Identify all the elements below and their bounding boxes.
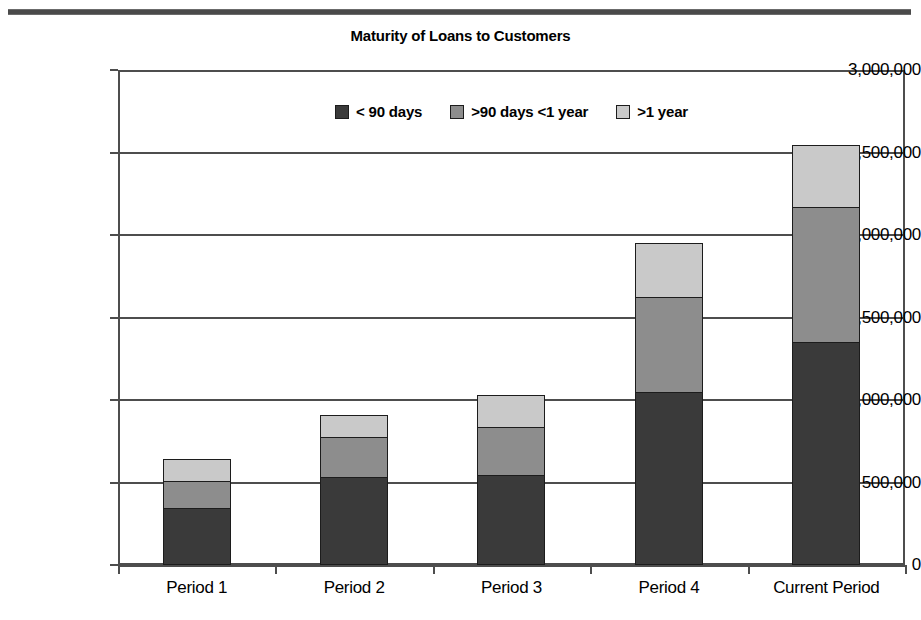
y-tick-mark	[110, 234, 118, 236]
bar-group[interactable]	[275, 70, 432, 565]
legend-label: >90 days <1 year	[471, 103, 588, 120]
legend-item[interactable]: >1 year	[616, 103, 688, 120]
bar-stack[interactable]	[163, 459, 231, 565]
bar-segment[interactable]	[477, 427, 545, 475]
y-tick-mark	[110, 69, 118, 71]
bar-segment[interactable]	[792, 145, 860, 207]
bar-group[interactable]	[433, 70, 590, 565]
x-tick-mark	[275, 565, 277, 574]
bar-stack[interactable]	[635, 243, 703, 565]
bars-layer	[118, 70, 905, 565]
bar-stack[interactable]	[320, 415, 388, 565]
x-tick-mark	[590, 565, 592, 574]
bar-segment[interactable]	[635, 392, 703, 565]
bar-segment[interactable]	[635, 297, 703, 392]
bar-segment[interactable]	[477, 395, 545, 427]
legend-swatch-icon	[616, 105, 630, 119]
x-tick-mark	[905, 565, 907, 574]
chart-legend: < 90 days>90 days <1 year>1 year	[118, 103, 905, 120]
y-tick-mark	[110, 564, 118, 566]
bar-stack[interactable]	[792, 145, 860, 565]
bar-segment[interactable]	[320, 437, 388, 477]
x-tick-label: Period 1	[118, 578, 275, 608]
bar-group[interactable]	[590, 70, 747, 565]
bar-group[interactable]	[118, 70, 275, 565]
x-tick-label: Period 3	[433, 578, 590, 608]
bar-group[interactable]	[748, 70, 905, 565]
bar-segment[interactable]	[635, 243, 703, 297]
legend-label: < 90 days	[356, 103, 422, 120]
legend-item[interactable]: >90 days <1 year	[450, 103, 588, 120]
x-tick-label: Period 2	[275, 578, 432, 608]
x-tick-mark	[748, 565, 750, 574]
bar-segment[interactable]	[792, 207, 860, 342]
bar-segment[interactable]	[477, 475, 545, 565]
bar-segment[interactable]	[320, 415, 388, 437]
legend-item[interactable]: < 90 days	[335, 103, 422, 120]
chart-title: Maturity of Loans to Customers	[0, 27, 921, 44]
bar-segment[interactable]	[163, 481, 231, 508]
y-tick-mark	[110, 152, 118, 154]
x-tick-label: Current Period	[748, 578, 905, 608]
bar-stack[interactable]	[477, 395, 545, 565]
y-tick-mark	[110, 399, 118, 401]
bar-segment[interactable]	[163, 459, 231, 481]
y-tick-mark	[110, 482, 118, 484]
x-axis-labels: Period 1Period 2Period 3Period 4Current …	[118, 578, 905, 608]
legend-swatch-icon	[335, 105, 349, 119]
legend-label: >1 year	[637, 103, 688, 120]
x-tick-mark	[433, 565, 435, 574]
y-tick-mark	[110, 317, 118, 319]
bar-segment[interactable]	[163, 508, 231, 565]
x-tick-label: Period 4	[590, 578, 747, 608]
header-rule	[8, 9, 911, 15]
x-axis-line	[118, 565, 905, 567]
legend-swatch-icon	[450, 105, 464, 119]
x-tick-mark	[118, 565, 120, 574]
bar-segment[interactable]	[320, 477, 388, 565]
bar-segment[interactable]	[792, 342, 860, 565]
